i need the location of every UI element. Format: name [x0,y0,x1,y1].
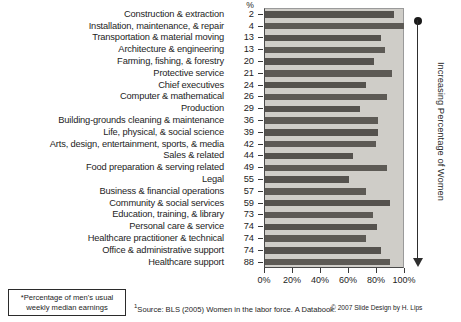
category-label: Office & administrative support [0,245,224,255]
bar [265,70,392,76]
source-text: Source: BLS (2005) Women in the labor fo… [137,305,336,314]
percent-women-value: 49 [228,162,254,172]
bar-lane [265,103,405,115]
percent-women-value: 88 [228,257,254,267]
category-label: Legal [0,174,224,184]
row-tick-mark [258,250,263,251]
percent-women-value: 73 [228,209,254,219]
bar-lane [265,56,405,68]
percent-women-value: 13 [228,32,254,42]
bar-lane [265,44,405,56]
row-tick-mark [258,203,263,204]
category-label: Personal care & service [0,221,224,231]
footnote-line-2: weekly median earnings [26,303,107,313]
category-label: Business & financial operations [0,186,224,196]
bar-lane [265,115,405,127]
x-tick [292,268,293,273]
x-tick [320,268,321,273]
x-tick [264,268,265,273]
percent-women-value: 29 [228,103,254,113]
bar [265,94,387,100]
bar [265,129,378,135]
bar-lane [265,162,405,174]
x-axis-labels: 0%20%40%60%80%100% [233,275,461,289]
plot-area [264,8,404,268]
percent-women-value: 74 [228,233,254,243]
bar-lane [265,127,405,139]
bar-lane [265,186,405,198]
bar-lane [265,221,405,233]
chart-container: % Construction & extraction2Installation… [0,0,461,322]
percent-women-value: 39 [228,127,254,137]
axis-arrow-icon [413,258,423,267]
increasing-percentage-axis: Increasing Percentage of Women [408,8,461,270]
row-tick-mark [258,155,263,156]
bar-lane [265,9,405,21]
row-tick-mark [258,73,263,74]
bar-lane [265,92,405,104]
bar-lane [265,245,405,257]
x-tick [404,268,405,273]
footnote-line-1: *Percentage of men's usual [21,293,114,303]
bar [265,247,381,253]
percent-women-value: 2 [228,9,254,19]
x-tick [376,268,377,273]
bar-lane [265,21,405,33]
category-label: Sales & related [0,150,224,160]
row-tick-mark [258,49,263,50]
x-tick [348,268,349,273]
bar-lane [265,174,405,186]
category-label: Building-grounds cleaning & maintenance [0,115,224,125]
bar [265,117,378,123]
bar [265,106,360,112]
footnote-box: *Percentage of men's usual weekly median… [8,289,126,316]
row-tick-mark [258,26,263,27]
bar [265,188,366,194]
bar [265,141,376,147]
percent-women-value: 59 [228,198,254,208]
percent-women-value: 74 [228,221,254,231]
row-tick-mark [258,226,263,227]
bar-lane [265,198,405,210]
percent-women-value: 36 [228,115,254,125]
row-tick-mark [258,132,263,133]
percent-women-value: 4 [228,21,254,31]
percent-women-value: 55 [228,174,254,184]
row-tick-mark [258,61,263,62]
credit-note: © 2007 Slide Design by H. Lips [331,304,422,311]
bar [265,82,366,88]
x-axis-ticks [264,268,405,274]
bar [265,47,385,53]
bar-lane [265,233,405,245]
percent-women-value: 57 [228,186,254,196]
category-label: Arts, design, entertainment, sports, & m… [0,139,224,149]
category-label: Installation, maintenance, & repair [0,21,224,31]
category-label: Construction & extraction [0,9,224,19]
percent-women-value: 74 [228,245,254,255]
percent-women-value: 21 [228,68,254,78]
axis-annotation-label: Increasing Percentage of Women [436,32,447,232]
source-note: 1Source: BLS (2005) Women in the labor f… [134,303,336,314]
row-tick-mark [258,96,263,97]
row-tick-mark [258,167,263,168]
bar [265,235,366,241]
category-label: Education, training, & library [0,209,224,219]
percent-women-value: 42 [228,139,254,149]
percent-women-value: 13 [228,44,254,54]
bar [265,58,374,64]
category-label: Production [0,103,224,113]
row-tick-mark [258,144,263,145]
bar [265,165,387,171]
percent-women-value: 44 [228,150,254,160]
bar [265,224,377,230]
bar-lane [265,210,405,222]
category-label: Transportation & material moving [0,32,224,42]
row-tick-mark [258,85,263,86]
row-tick-mark [258,179,263,180]
axis-line [417,20,418,263]
row-tick-mark [258,238,263,239]
category-label: Food preparation & serving related [0,162,224,172]
category-label: Life, physical, & social science [0,127,224,137]
bar [265,176,349,182]
row-tick-mark [258,108,263,109]
